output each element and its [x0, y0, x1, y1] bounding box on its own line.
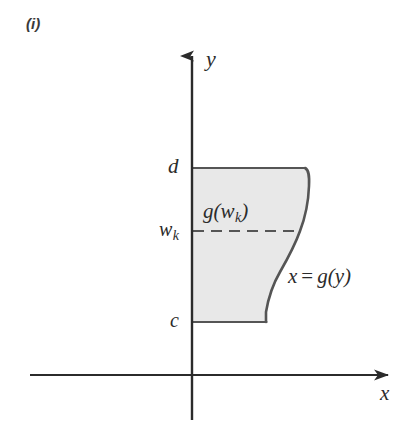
- width-annotation-main: g(w: [203, 199, 235, 223]
- tick-label-w-k: wk: [159, 219, 179, 243]
- tick-label-c: c: [170, 310, 179, 330]
- tick-label-d: d: [168, 156, 179, 177]
- axis-label-x: x: [380, 383, 389, 404]
- tick-label-w-subscript: k: [173, 228, 179, 243]
- curve-equation-rhs: g(y): [317, 264, 351, 288]
- tick-label-w-base: w: [159, 218, 172, 240]
- width-annotation-g-of-w-k: g(wk): [203, 201, 248, 225]
- width-annotation-tail: ): [241, 199, 248, 223]
- curve-equation-lhs: x: [288, 264, 297, 288]
- panel-label: (i): [26, 16, 40, 31]
- curve-equation-operator: =: [301, 264, 313, 288]
- axis-label-y: y: [206, 48, 216, 70]
- curve-equation-label: x=g(y): [288, 266, 351, 287]
- figure-container: (i) y x d c wk g(wk) x=g(y): [0, 0, 419, 438]
- shaded-region: [192, 168, 309, 322]
